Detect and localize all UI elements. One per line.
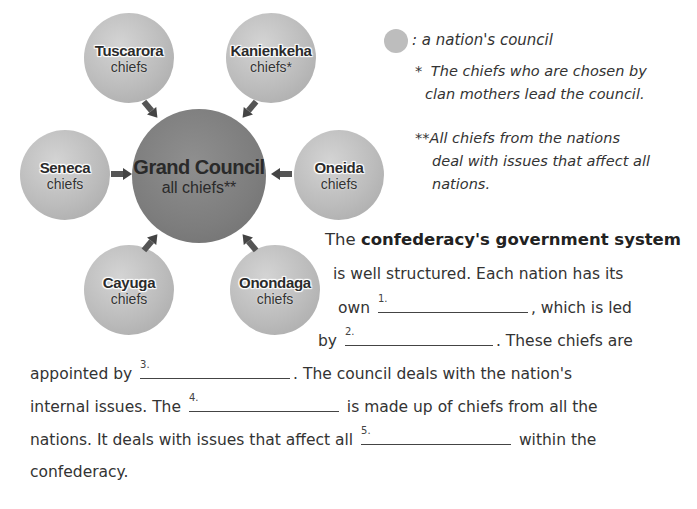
footnote-double-star: **All chiefs from the nations deal with … [415, 127, 695, 196]
nation-circle-tuscarora: Tuscarora chiefs [84, 13, 174, 103]
text: confederacy. [30, 463, 128, 481]
arrow-icon [139, 98, 162, 123]
grand-council-sub: all chiefs** [162, 178, 237, 197]
paragraph-line-4: by 2.. These chiefs are [318, 331, 633, 350]
text: by [318, 332, 342, 350]
grand-council-name: Grand Council [133, 156, 264, 178]
nation-sub: chiefs [321, 176, 358, 192]
grand-council-circle: Grand Council all chiefs** [132, 109, 266, 243]
nation-name: Seneca [40, 159, 91, 176]
footnote-text: All chiefs from the nations [430, 130, 620, 146]
nation-name: Cayuga [103, 274, 155, 291]
arrow-icon [237, 98, 260, 123]
nation-name: Oneida [314, 159, 363, 176]
paragraph-line-3: own 1., which is led [338, 298, 632, 317]
text: The [325, 230, 361, 249]
nation-sub: chiefs [111, 59, 148, 75]
text: own [338, 299, 375, 317]
footnote-text: The chiefs who are chosen by [427, 63, 647, 79]
legend-label: : a nation's council [412, 31, 553, 49]
arrow-icon [111, 168, 133, 180]
blank-number: 3. [140, 359, 150, 370]
nation-circle-seneca: Seneca chiefs [20, 130, 110, 220]
nation-sub: chiefs [47, 176, 84, 192]
blank-3-input[interactable]: 3. [140, 364, 290, 379]
blank-number: 4. [189, 392, 199, 403]
blank-number: 2. [345, 326, 355, 337]
footnote-mark: * [415, 63, 422, 79]
nation-name: Onondaga [239, 274, 311, 291]
footnote-mark: ** [415, 130, 430, 146]
text: appointed by [30, 365, 137, 383]
arrow-icon [270, 168, 292, 180]
key-term: confederacy's government system [361, 230, 681, 249]
nation-sub: chiefs* [250, 59, 292, 75]
paragraph-line-2: is well structured. Each nation has its [333, 265, 623, 283]
text: is made up of chiefs from all the [342, 398, 598, 416]
paragraph-line-8: confederacy. [30, 463, 128, 481]
paragraph-line-1: The confederacy's government system [325, 230, 681, 249]
blank-2-input[interactable]: 2. [345, 331, 493, 346]
nation-sub: chiefs [257, 291, 294, 307]
text: . These chiefs are [496, 332, 633, 350]
nation-name: Tuscarora [95, 42, 164, 59]
nation-sub: chiefs [111, 291, 148, 307]
blank-number: 5. [361, 425, 371, 436]
paragraph-line-7: nations. It deals with issues that affec… [30, 430, 596, 449]
nation-circle-onondaga: Onondaga chiefs [230, 245, 320, 335]
blank-number: 1. [378, 293, 388, 304]
blank-5-input[interactable]: 5. [361, 430, 511, 445]
paragraph-line-5: appointed by 3.. The council deals with … [30, 364, 572, 383]
nation-circle-cayuga: Cayuga chiefs [84, 245, 174, 335]
paragraph-line-6: internal issues. The 4. is made up of ch… [30, 397, 598, 416]
nation-name: Kanienkeha [230, 42, 311, 59]
nation-council-symbol-icon [384, 29, 408, 53]
blank-4-input[interactable]: 4. [189, 397, 339, 412]
footnote-text: clan mothers lead the council. [415, 83, 695, 106]
nation-circle-kanienkeha: Kanienkeha chiefs* [226, 13, 316, 103]
footnote-text: deal with issues that affect all [415, 150, 695, 173]
footnote-single-star: * The chiefs who are chosen by clan moth… [415, 60, 695, 106]
nation-circle-oneida: Oneida chiefs [294, 130, 384, 220]
text: is well structured. Each nation has its [333, 265, 623, 283]
text: nations. It deals with issues that affec… [30, 431, 358, 449]
footnote-text: nations. [415, 173, 695, 196]
text: within the [514, 431, 596, 449]
text: , which is led [531, 299, 632, 317]
text: internal issues. The [30, 398, 186, 416]
blank-1-input[interactable]: 1. [378, 298, 528, 313]
text: . The council deals with the nation's [293, 365, 572, 383]
